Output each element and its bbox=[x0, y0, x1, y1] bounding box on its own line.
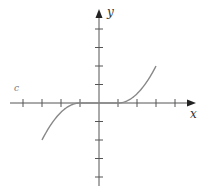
y-axis-arrow-icon bbox=[96, 9, 103, 18]
y-axis-label: y bbox=[107, 6, 114, 18]
chart-canvas bbox=[0, 0, 199, 192]
stray-label: c bbox=[14, 84, 19, 93]
y-axis bbox=[96, 9, 103, 186]
x-axis-arrow-icon bbox=[187, 100, 196, 107]
x-axis-label: x bbox=[190, 108, 197, 120]
